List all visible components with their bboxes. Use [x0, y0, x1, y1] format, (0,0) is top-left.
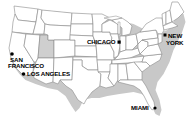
city-marker-icon: [164, 34, 167, 37]
city-label-chicago: CHICAGO: [87, 38, 116, 45]
us-map: SAN FRANCISCO LOS ANGELES CHICAGO NEW YO…: [0, 0, 187, 120]
state-new-jersey: [158, 34, 162, 44]
city-marker-icon: [118, 41, 121, 44]
state-kansas: [75, 46, 97, 57]
city-label-miami: MIAMI: [131, 104, 149, 111]
state-wyoming: [44, 24, 71, 40]
state-south-dakota: [70, 24, 93, 36]
city-label-san-francisco-line2: FRANCISCO: [8, 62, 44, 69]
state-colorado: [54, 40, 75, 58]
city-label-los-angeles: LOS ANGELES: [27, 70, 70, 77]
state-vermont: [162, 12, 166, 26]
state-north-dakota: [71, 13, 93, 24]
city-marker-icon: [153, 106, 156, 109]
city-los-angeles[interactable]: LOS ANGELES: [22, 70, 70, 77]
state-montana: [41, 10, 72, 26]
city-label-new-york-line1: NEW: [168, 32, 182, 39]
state-indiana: [120, 36, 126, 52]
city-label-new-york-line2: YORK: [166, 39, 184, 46]
lake-michigan: [118, 22, 120, 34]
city-marker-icon: [22, 72, 26, 76]
